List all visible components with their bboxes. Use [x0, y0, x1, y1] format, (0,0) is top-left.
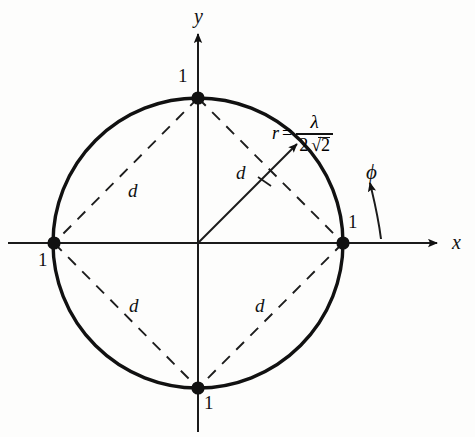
point-right-dot	[336, 236, 349, 249]
diagram-graphics	[0, 0, 475, 437]
radius-formula-fraction: λ 2 √2	[296, 112, 333, 154]
d-label-upper-left: d	[128, 181, 138, 200]
radius-formula-numerator: λ	[307, 112, 323, 133]
point-right-label: 1	[348, 212, 358, 231]
point-top-label: 1	[178, 66, 188, 85]
point-left-label: 1	[38, 250, 48, 269]
point-bottom-dot	[191, 381, 204, 394]
d-label-lower-right: d	[255, 296, 265, 315]
phi-arc	[370, 183, 381, 239]
d-label-upper-right: d	[236, 163, 246, 182]
radius-denominator-coefficient: 2	[299, 136, 308, 155]
chord-bottom-right	[198, 243, 343, 388]
d-label-lower-left: d	[129, 296, 139, 315]
chord-top-left	[54, 98, 198, 243]
radius-formula: r = λ 2 √2	[272, 112, 333, 154]
point-left-dot	[47, 236, 60, 249]
radius-formula-equals: =	[282, 123, 292, 144]
point-top-dot	[191, 91, 204, 104]
y-axis-label: y	[194, 6, 203, 26]
radius-formula-denominator: 2 √2	[296, 135, 333, 155]
sqrt-icon: √2	[309, 136, 330, 155]
chord-bottom-left	[54, 243, 198, 388]
figure-canvas: y x 1 1 1 1 d d d d ϕ r = λ 2 √2	[0, 0, 475, 437]
radius-formula-lhs: r	[272, 123, 279, 144]
phi-label: ϕ	[366, 162, 377, 183]
sqrt-overbar	[318, 137, 330, 138]
x-axis-label: x	[452, 232, 461, 252]
point-bottom-label: 1	[204, 393, 214, 412]
radius-arrow	[198, 144, 297, 243]
